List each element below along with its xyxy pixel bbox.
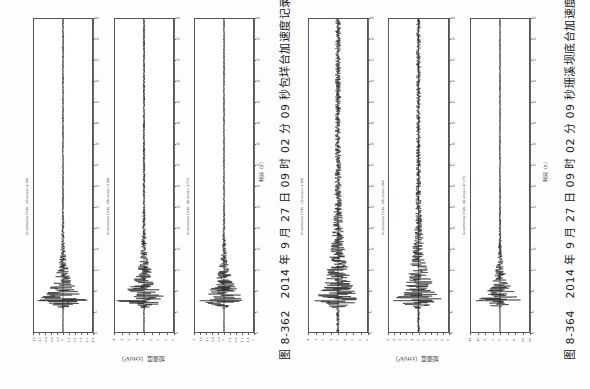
time-tick-label: 20 <box>532 226 536 230</box>
time-tick-label: 24 <box>95 205 99 209</box>
acc-tick-label: -1.5 <box>32 337 36 343</box>
time-tick-label: 0 <box>370 331 372 335</box>
time-tick-label: 36 <box>95 142 99 146</box>
time-tick-label: 32 <box>451 163 455 167</box>
acc-tick-mark <box>200 333 201 335</box>
acc-tick-label: 0 <box>497 339 501 341</box>
document-page: Acceleration 72(#)...UD amax=-1.386 Acce… <box>0 0 590 389</box>
time-tick-label: 56 <box>256 37 260 41</box>
acceleration-waveform <box>315 19 357 332</box>
time-tick-label: 20 <box>370 226 374 230</box>
time-axis-line <box>254 18 255 333</box>
time-tick-label: 4 <box>95 310 97 314</box>
acc-tick-label: -14 <box>468 338 472 343</box>
acc-tick-label: 0.6 <box>73 338 77 343</box>
acc-tick-mark <box>316 333 317 335</box>
acceleration-waveform <box>200 19 243 332</box>
acc-tick-mark <box>388 333 389 335</box>
time-tick-label: 12 <box>370 268 374 272</box>
waveform-panel-ew <box>388 18 449 333</box>
time-tick-label: 40 <box>95 121 99 125</box>
acc-tick-label: 3 <box>357 339 361 341</box>
acc-tick-mark <box>394 333 395 335</box>
time-tick-label: 8 <box>532 289 534 293</box>
time-tick-label: 16 <box>176 247 180 251</box>
acc-tick-label: 4 <box>365 339 369 341</box>
time-tick-label: 12 <box>532 268 536 272</box>
time-tick-label: 44 <box>256 100 260 104</box>
acceleration-waveform <box>38 19 88 332</box>
acc-tick-label: -4 <box>306 339 310 342</box>
time-tick-label: 40 <box>532 121 536 125</box>
acc-tick-label: -1 <box>328 339 332 342</box>
time-tick-label: 24 <box>176 205 180 209</box>
acc-tick-label: 2 <box>350 339 354 341</box>
acc-tick-mark <box>443 333 444 335</box>
acc-tick-mark <box>51 333 52 335</box>
time-tick-label: 24 <box>370 205 374 209</box>
time-tick-label: 60 <box>95 16 99 20</box>
acc-tick-mark <box>437 333 438 335</box>
time-axis-title: 时间（s） <box>541 159 548 182</box>
acc-tick-mark <box>346 333 347 335</box>
acc-tick-mark <box>39 333 40 335</box>
time-tick-label: 4 <box>532 310 534 314</box>
time-tick-label: 0 <box>95 331 97 335</box>
acc-tick-mark <box>254 333 255 335</box>
waveform-panel-ns <box>470 18 530 333</box>
time-tick-label: 56 <box>95 37 99 41</box>
acc-tick-label: -1.2 <box>38 337 42 343</box>
time-tick-label: 60 <box>532 16 536 20</box>
acc-tick-mark <box>242 333 243 335</box>
acc-tick-mark <box>419 333 420 335</box>
acc-tick-label: 0 <box>141 339 145 341</box>
time-axis-line <box>368 18 369 333</box>
time-tick-label: 0 <box>256 331 258 335</box>
acc-tick-label: 0 <box>415 339 419 341</box>
acceleration-waveform <box>117 19 164 332</box>
acc-tick-label: 1 <box>342 339 346 341</box>
acc-tick-label: 3 <box>434 339 438 341</box>
time-tick-label: 56 <box>176 37 180 41</box>
time-tick-label: 44 <box>370 100 374 104</box>
time-tick-label: 4 <box>370 310 372 314</box>
station-label: Acceleration 72(#)...NS amax=-1.773 <box>186 178 190 235</box>
acc-tick-mark <box>425 333 426 335</box>
acceleration-axis: -5-4-3-2-1012345 <box>388 335 449 345</box>
time-tick-label: 44 <box>532 100 536 104</box>
acc-tick-mark <box>236 333 237 335</box>
acc-tick-mark <box>338 333 339 335</box>
time-tick-label: 0 <box>532 331 534 335</box>
acc-tick-mark <box>87 333 88 335</box>
time-tick-label: 40 <box>176 121 180 125</box>
acc-tick-mark <box>167 333 168 335</box>
time-tick-label: 36 <box>532 142 536 146</box>
acc-tick-label: 2 <box>504 339 508 341</box>
acc-tick-label: 0.8 <box>234 338 238 343</box>
acc-tick-label: -5 <box>386 339 390 342</box>
time-tick-label: 12 <box>95 268 99 272</box>
acc-tick-mark <box>248 333 249 335</box>
acc-tick-label: 1.2 <box>240 338 244 343</box>
acc-tick-mark <box>485 333 486 335</box>
acc-tick-label: 6 <box>512 339 516 341</box>
time-tick-label: 4 <box>256 310 258 314</box>
time-tick-label: 20 <box>256 226 260 230</box>
acc-tick-label: 1.2 <box>85 338 89 343</box>
acc-tick-mark <box>308 333 309 335</box>
time-axis-line <box>449 18 450 333</box>
figure-caption: 图 8-362 2014 年 9 月 27 日 09 时 02 分 09 秒包垟… <box>276 0 292 360</box>
acc-tick-mark <box>412 333 413 335</box>
time-axis: 04812162024283236404448525660 <box>368 18 376 333</box>
time-axis: 04812162024283236404448525660 <box>530 18 538 333</box>
time-tick-label: 32 <box>176 163 180 167</box>
acc-tick-label: 4 <box>171 339 175 341</box>
time-tick-label: 40 <box>451 121 455 125</box>
time-tick-label: 36 <box>176 142 180 146</box>
time-axis: 04812162024283236404448525660 <box>174 18 182 333</box>
station-label: Acceleration 72(#)...NS amax=-12.273 <box>462 176 466 235</box>
acc-tick-mark <box>470 333 471 335</box>
acc-tick-mark <box>478 333 479 335</box>
time-tick-label: 60 <box>370 16 374 20</box>
time-tick-label: 48 <box>370 79 374 83</box>
